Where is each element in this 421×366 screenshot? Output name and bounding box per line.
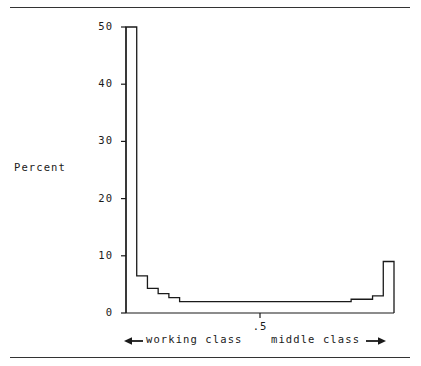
y-tick-label: 40 (87, 77, 113, 89)
arrow-left-icon (124, 335, 144, 347)
working-class-label: working class (146, 333, 242, 345)
y-tick-marks (121, 27, 126, 313)
bottom-divider-rule (10, 357, 410, 358)
chart-figure: Percent 01020304050 .5 working class mid… (0, 0, 421, 366)
x-tick-label: .5 (245, 320, 275, 332)
plot-axes (126, 27, 394, 313)
y-tick-label: 50 (87, 20, 113, 32)
y-tick-label: 30 (87, 134, 113, 146)
middle-class-label: middle class (271, 333, 360, 345)
y-axis-title: Percent (14, 161, 66, 173)
arrow-right-icon (366, 335, 386, 347)
y-tick-label: 10 (87, 249, 113, 261)
histogram-plot (0, 0, 421, 366)
y-tick-label: 0 (87, 306, 113, 318)
histogram-outline (126, 27, 394, 313)
y-tick-label: 20 (87, 192, 113, 204)
